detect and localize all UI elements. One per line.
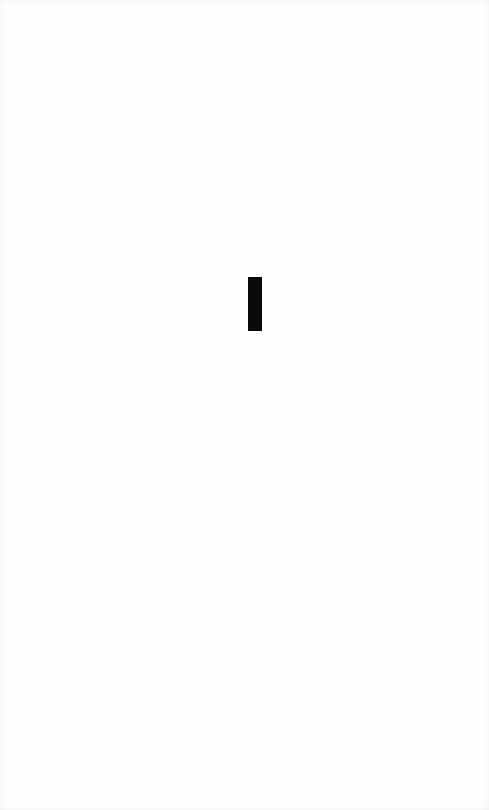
blank-page: [0, 0, 489, 810]
text-cursor-caret: [248, 277, 262, 331]
